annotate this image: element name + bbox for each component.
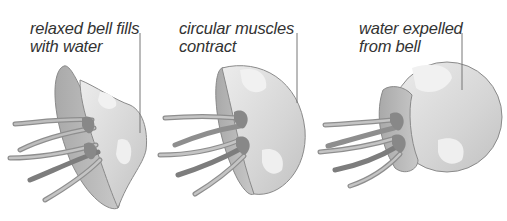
- jellyfish-relaxed: [10, 33, 147, 209]
- jellyfish-expelled: [320, 33, 502, 186]
- jellyfish-diagram: relaxed bell fills with water circular m…: [0, 0, 507, 221]
- jellyfish-illustrations: [0, 0, 507, 221]
- jellyfish-contracting: [160, 33, 305, 194]
